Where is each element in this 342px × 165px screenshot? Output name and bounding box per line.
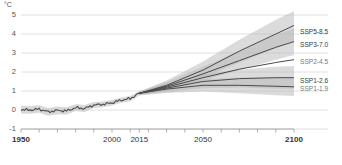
axis-lines-and-ticks	[21, 129, 294, 133]
scenario-label-ssp3-70: SSP3-7.0	[300, 41, 328, 49]
y-axis-tick-1: 1	[0, 87, 16, 95]
y-axis-tick-5: 5	[0, 11, 16, 19]
y-axis-tick-neg1: -1	[0, 125, 16, 133]
x-axis-tick-2015: 2015	[122, 135, 156, 144]
uncertainty-bands	[21, 11, 294, 116]
y-axis-tick-2: 2	[0, 68, 16, 76]
scenario-label-ssp2-45: SSP2-4.5	[300, 58, 328, 66]
temperature-projection-chart: °C 543210-1 19502000201520502100 SSP5-8.…	[0, 0, 342, 165]
x-axis-tick-2050: 2050	[186, 135, 220, 144]
scenario-label-ssp1-19: SSP1-1.9	[300, 85, 328, 93]
x-axis-tick-2100: 2100	[277, 135, 311, 144]
y-axis-tick-3: 3	[0, 49, 16, 57]
scenario-label-ssp1-26: SSP1-2.6	[300, 77, 328, 85]
x-axis-tick-1950: 1950	[4, 135, 38, 144]
y-axis-tick-0: 0	[0, 106, 16, 114]
scenario-label-ssp5-85: SSP5-8.5	[300, 28, 328, 36]
y-axis-tick-4: 4	[0, 30, 16, 38]
